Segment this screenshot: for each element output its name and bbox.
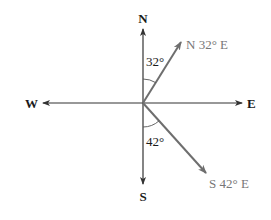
bearing-n32e-angle-label: 32°	[146, 54, 164, 69]
bearing-n32e-vector	[143, 42, 181, 103]
compass-axes	[43, 29, 242, 184]
east-label: E	[247, 96, 256, 111]
bearing-n32e: 32° N 32° E	[143, 37, 228, 103]
bearing-s42e-angle-arc	[143, 121, 159, 127]
bearing-n32e-angle-arc	[143, 79, 156, 83]
bearing-s42e-label: S 42° E	[209, 176, 249, 191]
bearing-n32e-label: N 32° E	[186, 37, 228, 52]
west-label: W	[25, 96, 38, 111]
bearing-s42e-angle-label: 42°	[146, 134, 164, 149]
bearing-s42e: 42° S 42° E	[143, 103, 249, 191]
north-label: N	[138, 11, 148, 26]
south-label: S	[139, 189, 146, 204]
compass-diagram: N S E W 32° N 32° E 42° S 42° E	[0, 0, 271, 220]
